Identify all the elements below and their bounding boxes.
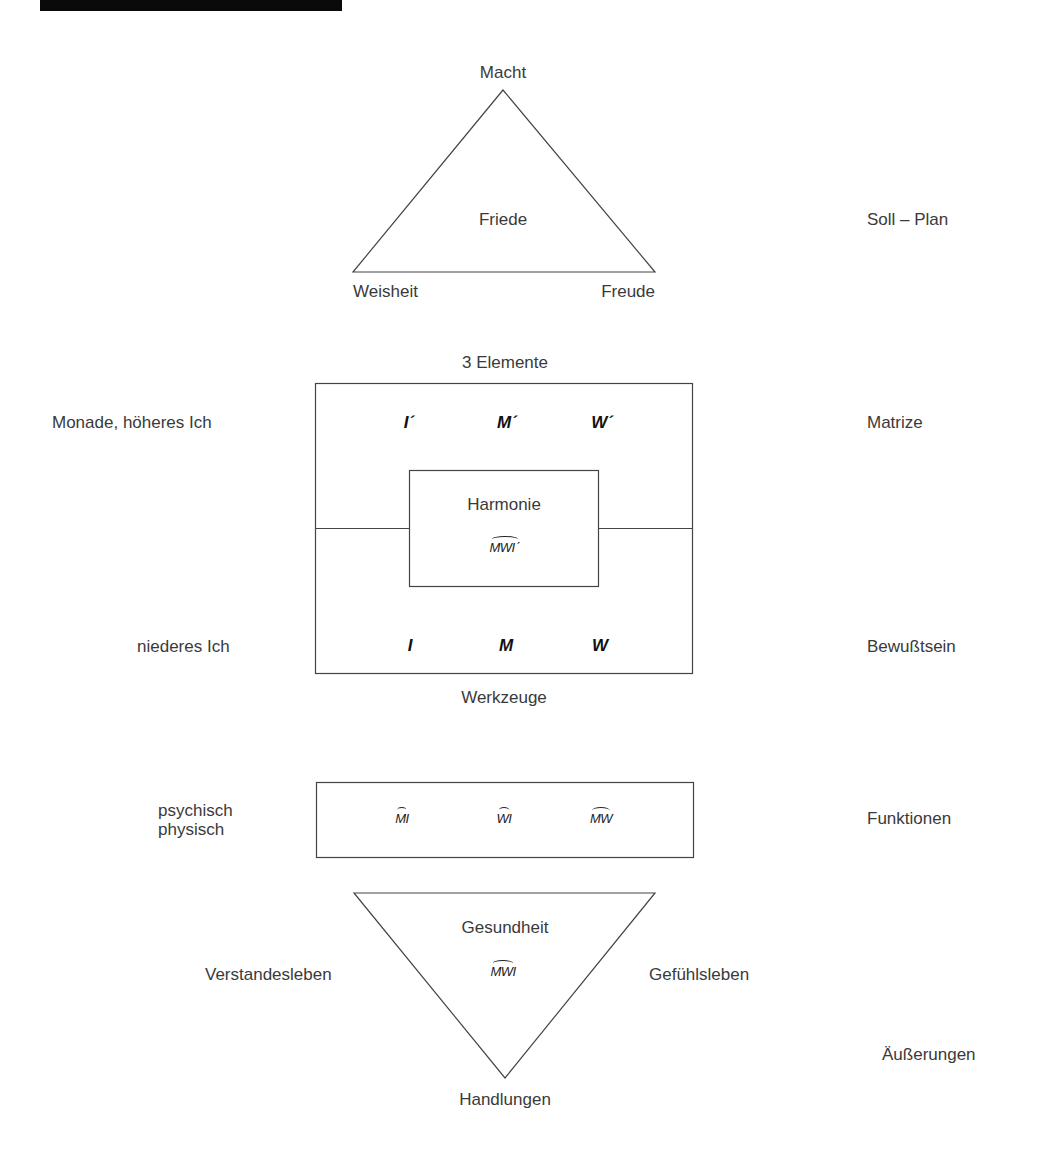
- arc-icon: [499, 807, 510, 814]
- symbol-mwi-prime: MWI´: [489, 541, 520, 554]
- symbol-i-prime: I´: [404, 414, 414, 431]
- label-handlungen: Handlungen: [459, 1091, 551, 1108]
- symbol-w: W: [592, 637, 608, 654]
- symbol-m: M: [499, 637, 513, 654]
- top-triangle: [353, 90, 655, 272]
- symbol-mw: MW: [590, 812, 612, 825]
- label-weisheit: Weisheit: [353, 283, 418, 300]
- arc-icon: [492, 960, 513, 967]
- label-soll-plan: Soll – Plan: [867, 211, 948, 228]
- symbol-m-prime: M´: [497, 414, 517, 431]
- label-monade: Monade, höheres Ich: [52, 414, 212, 431]
- label-verstandesleben: Verstandesleben: [205, 966, 332, 983]
- label-friede: Friede: [479, 211, 527, 228]
- label-funktionen: Funktionen: [867, 810, 951, 827]
- label-werkzeuge: Werkzeuge: [461, 689, 547, 706]
- label-gefuehlsleben: Gefühlsleben: [649, 966, 749, 983]
- arc-icon: [397, 807, 406, 814]
- label-aeusserungen: Äußerungen: [882, 1046, 976, 1063]
- label-harmonie: Harmonie: [467, 496, 541, 513]
- label-physisch: physisch: [158, 821, 224, 838]
- label-gesundheit: Gesundheit: [462, 919, 549, 936]
- symbol-wi: WI: [497, 812, 512, 825]
- label-bewusstsein: Bewußtsein: [867, 638, 956, 655]
- symbol-i: I: [408, 637, 413, 654]
- symbol-mwi: MWI: [490, 965, 515, 978]
- diagram-lines: [0, 0, 1048, 1160]
- label-3-elemente: 3 Elemente: [462, 354, 548, 371]
- label-freude: Freude: [601, 283, 655, 300]
- label-psychisch: psychisch: [158, 802, 233, 819]
- arc-icon: [491, 536, 518, 543]
- symbol-mi: MI: [395, 812, 408, 825]
- label-matrize: Matrize: [867, 414, 923, 431]
- arc-icon: [592, 807, 610, 814]
- label-niederes-ich: niederes Ich: [137, 638, 230, 655]
- label-macht: Macht: [480, 64, 526, 81]
- harmony-box: [410, 471, 599, 587]
- symbol-w-prime: W´: [591, 414, 613, 431]
